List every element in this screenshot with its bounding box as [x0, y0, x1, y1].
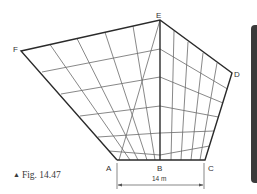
dimension-label: 14 m	[152, 175, 166, 182]
roof-outline	[21, 20, 232, 160]
label-E: E	[156, 11, 161, 20]
label-C: C	[208, 164, 214, 173]
page-edge-bar	[251, 25, 257, 183]
roof-diagram: E F D A B C 14 m	[0, 0, 257, 194]
left-face-grid	[42, 20, 160, 160]
triangle-marker-icon: ▲	[13, 171, 20, 179]
diagonal-line	[119, 20, 160, 160]
label-F: F	[13, 45, 18, 54]
label-B: B	[157, 164, 162, 173]
right-face-grid	[160, 31, 228, 160]
caption-text: Fig. 14.47	[22, 170, 61, 180]
label-A: A	[106, 164, 112, 173]
label-D: D	[234, 70, 240, 79]
figure-caption: ▲Fig. 14.47	[13, 170, 61, 180]
